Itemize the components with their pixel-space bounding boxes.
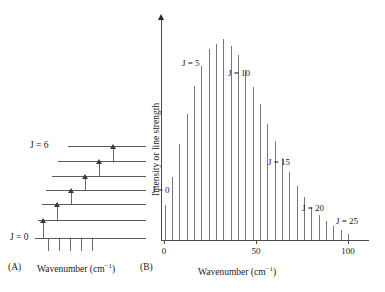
panel-a-axis-title-end: ) xyxy=(112,264,115,274)
x-ticklabel-100: 100 xyxy=(338,246,358,256)
panel-b-spectrum: Intensity or line strength 0 50 100 J = … xyxy=(140,0,385,292)
transition-arrowhead-5-6 xyxy=(110,144,116,149)
transition-arrow-5-6 xyxy=(113,148,114,161)
energy-level-J4 xyxy=(52,176,146,177)
panel-a-axis-title-sup: −1 xyxy=(105,262,112,270)
x-tick-100 xyxy=(348,240,349,244)
spectrum-line-J11 xyxy=(245,70,246,240)
x-ticklabel-0-text: 0 xyxy=(162,246,167,256)
x-axis-line xyxy=(161,240,369,241)
y-axis-line xyxy=(161,20,162,240)
annotation-J0: J = 0 xyxy=(152,185,170,195)
panel-b-axis-title-sup: −1 xyxy=(266,265,273,273)
spectrum-line-J25 xyxy=(348,234,349,240)
annotation-J5-text: J = 5 xyxy=(182,58,200,68)
x-ticklabel-50: 50 xyxy=(248,246,264,256)
transition-arrowhead-3-4 xyxy=(82,174,88,179)
spectrum-line-J13 xyxy=(260,104,261,240)
transition-arrow-3-4 xyxy=(85,178,86,190)
annotation-J10: J = 10 xyxy=(228,68,250,78)
panel-b-axis-title-end: ) xyxy=(273,267,276,277)
spectrum-line-J2 xyxy=(179,144,180,240)
panel-b-tag-text: (B) xyxy=(140,262,153,272)
x-ticklabel-0: 0 xyxy=(156,246,172,256)
spectrum-line-J14 xyxy=(267,124,268,240)
panel-a-axis-title-text: Wavenumber (cm xyxy=(37,264,105,274)
spectrum-line-J3 xyxy=(187,114,188,240)
panel-b-tag: (B) xyxy=(140,262,153,272)
annotation-J15-text: J = 15 xyxy=(268,157,290,167)
transition-arrowhead-4-5 xyxy=(96,159,102,164)
spectrum-line-J18 xyxy=(297,186,298,240)
y-axis-label-text: Intensity or line strength xyxy=(151,103,161,196)
level-label-J0: J = 0 xyxy=(10,232,29,242)
spectrum-line-J22 xyxy=(326,221,327,240)
transition-arrowhead-1-2 xyxy=(54,202,60,207)
level-label-J6-text: J = 6 xyxy=(30,140,49,150)
level-label-J0-text: J = 0 xyxy=(10,232,29,242)
spectrum-line-J8 xyxy=(223,39,224,240)
panel-b-axis-title-text: Wavenumber (cm xyxy=(198,267,266,277)
x-ticklabel-50-text: 50 xyxy=(252,246,261,256)
transition-arrowhead-0-1 xyxy=(40,218,46,223)
annotation-J0-text: J = 0 xyxy=(152,185,170,195)
x-tick-50 xyxy=(256,240,257,244)
energy-level-J6 xyxy=(68,146,146,147)
spectrum-line-J16 xyxy=(282,158,283,240)
annotation-J15: J = 15 xyxy=(268,157,290,167)
spectrum-line-J24 xyxy=(341,230,342,240)
transition-arrowhead-2-3 xyxy=(68,188,74,193)
spectrum-line-J21 xyxy=(319,215,320,240)
figure-root: J = 6 J = 0 (A) Wavenumber (cm−1) Intens… xyxy=(0,0,385,292)
x-ticklabel-100-text: 100 xyxy=(341,246,355,256)
energy-level-J5 xyxy=(58,161,146,162)
spectrum-tick-5 xyxy=(92,239,93,251)
spectrum-line-J0 xyxy=(165,205,166,240)
level-label-J6: J = 6 xyxy=(30,140,49,150)
spectrum-line-J6 xyxy=(209,49,210,240)
spectrum-line-J5 xyxy=(201,66,202,240)
panel-a-axis-title: Wavenumber (cm−1) xyxy=(37,262,115,274)
spectrum-tick-2 xyxy=(59,239,60,251)
spectrum-line-J1 xyxy=(172,177,173,240)
energy-level-J0 xyxy=(35,238,146,239)
transition-arrow-0-1 xyxy=(43,222,44,238)
energy-level-J3 xyxy=(46,190,146,191)
transition-arrow-1-2 xyxy=(57,206,58,220)
spectrum-tick-1 xyxy=(48,239,49,251)
transition-arrow-4-5 xyxy=(99,163,100,176)
annotation-J10-text: J = 10 xyxy=(228,68,250,78)
y-axis-label: Intensity or line strength xyxy=(151,103,161,196)
annotation-J20: J = 20 xyxy=(302,203,324,213)
spectrum-line-J4 xyxy=(194,86,195,240)
panel-b-axis-title: Wavenumber (cm−1) xyxy=(198,265,276,277)
annotation-J25-text: J = 25 xyxy=(336,216,358,226)
annotation-J20-text: J = 20 xyxy=(302,203,324,213)
spectrum-line-J10 xyxy=(238,55,239,241)
spectrum-line-J23 xyxy=(333,226,334,240)
spectrum-line-J12 xyxy=(253,87,254,240)
energy-level-J1 xyxy=(38,220,146,221)
annotation-J25: J = 25 xyxy=(336,216,358,226)
panel-a-tag: (A) xyxy=(8,262,21,272)
spectrum-line-J17 xyxy=(289,172,290,240)
spectrum-tick-3 xyxy=(70,239,71,251)
y-axis-arrowhead xyxy=(158,14,164,20)
spectrum-tick-4 xyxy=(81,239,82,251)
panel-a-tag-text: (A) xyxy=(8,262,21,272)
spectrum-line-J7 xyxy=(216,44,217,240)
x-tick-0 xyxy=(164,240,165,244)
transition-arrow-2-3 xyxy=(71,192,72,204)
annotation-J5: J = 5 xyxy=(182,58,200,68)
